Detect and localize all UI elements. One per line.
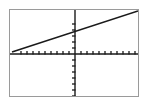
graph-screenshot — [0, 0, 148, 106]
axes-group — [10, 10, 138, 96]
plot-canvas — [10, 10, 139, 97]
graph-frame — [9, 9, 139, 97]
